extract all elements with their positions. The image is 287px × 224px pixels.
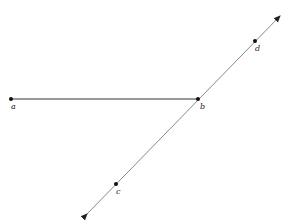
label-a: a bbox=[11, 102, 16, 111]
point-c bbox=[114, 182, 118, 186]
geometry-diagram bbox=[0, 0, 287, 224]
label-b: b bbox=[200, 102, 205, 111]
point-d bbox=[253, 39, 257, 43]
point-b bbox=[196, 97, 200, 101]
label-d: d bbox=[255, 44, 260, 53]
label-c: c bbox=[116, 187, 120, 196]
point-a bbox=[9, 97, 13, 101]
